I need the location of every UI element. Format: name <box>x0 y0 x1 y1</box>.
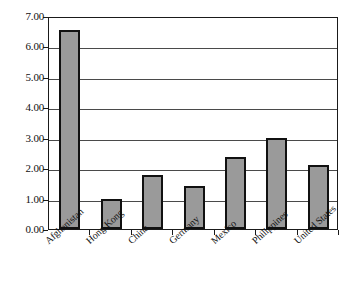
y-axis-tick-label: 2.00 <box>4 163 44 174</box>
gridline <box>49 109 337 110</box>
y-axis-tick-label: 6.00 <box>4 41 44 52</box>
y-axis-tick-mark <box>43 230 48 231</box>
y-axis-tick-label: 7.00 <box>4 11 44 22</box>
gridline <box>49 170 337 171</box>
y-axis-tick-label: 3.00 <box>4 133 44 144</box>
bar <box>142 175 163 229</box>
plot-area <box>48 17 338 230</box>
gridline <box>49 79 337 80</box>
bar <box>225 157 246 229</box>
gridline <box>49 48 337 49</box>
y-axis-tick-label: 0.00 <box>4 224 44 235</box>
bar-chart: 0.001.002.003.004.005.006.007.00 Afghani… <box>0 0 360 296</box>
bar <box>59 30 80 229</box>
y-axis-tick-label: 5.00 <box>4 72 44 83</box>
gridline <box>49 140 337 141</box>
x-axis-tick-mark <box>338 230 339 235</box>
y-axis-tick-label: 4.00 <box>4 102 44 113</box>
y-axis-tick-label: 1.00 <box>4 194 44 205</box>
